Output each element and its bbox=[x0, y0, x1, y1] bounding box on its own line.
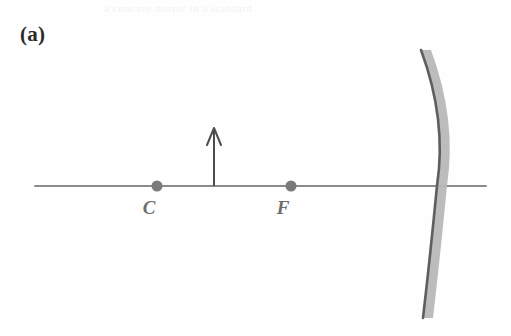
optics-diagram: C F bbox=[0, 0, 511, 336]
figure-panel: a concave mirror in a standard (a) C F bbox=[0, 0, 511, 336]
mirror-body bbox=[421, 50, 450, 318]
label-focal-point: F bbox=[276, 197, 290, 218]
point-center-of-curvature bbox=[152, 181, 163, 192]
point-focal bbox=[286, 181, 297, 192]
label-center-of-curvature: C bbox=[143, 197, 156, 218]
